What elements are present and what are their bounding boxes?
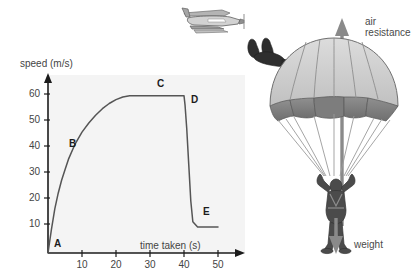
weight-label: weight [354,239,383,250]
x-tick-label-30: 30 [139,259,161,270]
air-resistance-label-line2: resistance [365,27,411,38]
curve-point-label-e: E [203,206,210,217]
parachute-canopy [270,38,398,121]
y-axis [44,73,52,253]
y-tick-label-40: 40 [18,140,40,151]
y-tick-label-30: 30 [18,166,40,177]
y-tick-label-50: 50 [18,114,40,125]
y-tick-label-20: 20 [18,192,40,203]
x-tick-label-50: 50 [207,259,229,270]
air-resistance-label-line1: air [365,16,411,27]
curve-point-label-c: C [157,78,164,89]
curve-point-label-a: A [54,238,61,249]
airplane-body [182,8,244,33]
y-axis-ticks [44,94,50,224]
curve-point-label-d: D [191,94,198,105]
x-tick-label-10: 10 [71,259,93,270]
parachute-suspension-lines [278,114,390,176]
y-axis-title: speed (m/s) [20,58,73,69]
y-tick-label-10: 10 [18,218,40,229]
speed-curve [48,96,218,253]
x-tick-label-20: 20 [105,259,127,270]
x-tick-label-40: 40 [173,259,195,270]
chart-plot-svg [0,50,250,261]
airplane-icon [178,4,248,40]
parachutist-diagram: air resistance weight [262,6,407,261]
speed-time-chart: speed (m/s) time taken (s) 60 50 40 30 2… [0,50,250,261]
y-tick-label-60: 60 [18,88,40,99]
curve-point-label-b: B [69,138,76,149]
parachutist-svg [262,6,407,261]
x-axis-title: time taken (s) [140,240,201,251]
air-resistance-label: air resistance [365,16,411,38]
